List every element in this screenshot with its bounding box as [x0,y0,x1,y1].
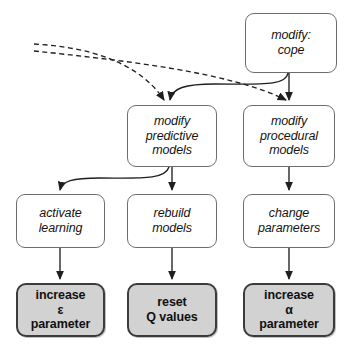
edge-cope-to-predictive [170,73,288,100]
node-label: modify predictive models [146,114,199,158]
node-increase-alpha-parameter[interactable]: increase α parameter [243,283,335,337]
node-label: change parameters [258,206,320,236]
node-modify-cope[interactable]: modify: cope [245,13,337,73]
diagram-canvas: modify: cope modify predictive models mo… [0,0,348,352]
node-modify-predictive-models[interactable]: modify predictive models [127,105,217,167]
node-label: rebuild models [152,206,192,236]
node-label: increase α parameter [259,288,319,332]
node-label: modify procedural models [260,114,318,158]
node-modify-procedural-models[interactable]: modify procedural models [243,105,335,167]
node-label: activate learning [39,206,83,236]
node-rebuild-models[interactable]: rebuild models [127,194,217,248]
edge-predictive-to-activate [60,167,169,190]
edge-dashed-to-predictive [34,44,164,100]
node-label: reset Q values [146,295,197,325]
node-change-parameters[interactable]: change parameters [243,194,335,248]
node-activate-learning[interactable]: activate learning [16,194,105,248]
node-label: increase ε parameter [31,288,91,332]
node-reset-q-values[interactable]: reset Q values [127,283,217,337]
node-label: modify: cope [271,28,311,58]
node-increase-epsilon-parameter[interactable]: increase ε parameter [16,283,105,337]
